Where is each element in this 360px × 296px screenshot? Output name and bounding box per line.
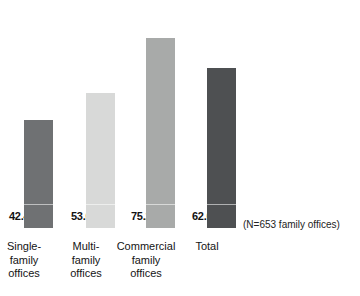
bar-multi-family[interactable] — [86, 93, 115, 228]
category-line-1: Commercial — [117, 240, 176, 254]
bar-seam — [207, 204, 236, 205]
category-label-total: Total — [195, 240, 218, 254]
plot-area: 42.4% Single- family offices 53.0% Multi… — [0, 0, 360, 296]
bar-commercial-family[interactable] — [146, 38, 175, 228]
bar-seam — [146, 204, 175, 205]
category-line-2: family — [117, 254, 176, 268]
category-line-3: offices — [7, 267, 41, 281]
category-line-1: Total — [195, 240, 218, 254]
bar-total[interactable] — [207, 68, 236, 228]
category-line-2: family — [7, 254, 41, 268]
bar-chart: 42.4% Single- family offices 53.0% Multi… — [0, 0, 360, 296]
category-line-3: offices — [117, 267, 176, 281]
category-line-2: family — [70, 254, 102, 268]
category-label-commercial-family: Commercial family offices — [117, 240, 176, 281]
sample-size-annotation: (N=653 family offices) — [243, 219, 340, 230]
bar-single-family[interactable] — [24, 120, 53, 228]
category-label-multi-family: Multi- family offices — [70, 240, 102, 281]
bar-seam — [86, 204, 115, 205]
bar-seam — [24, 204, 53, 205]
category-line-1: Multi- — [70, 240, 102, 254]
category-label-single-family: Single- family offices — [7, 240, 41, 281]
category-line-3: offices — [70, 267, 102, 281]
category-line-1: Single- — [7, 240, 41, 254]
